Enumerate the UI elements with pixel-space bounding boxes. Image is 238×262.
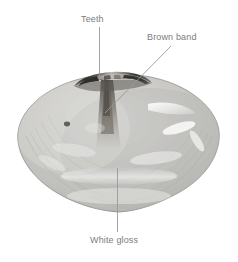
dark-spot [64, 122, 70, 127]
shell-body [14, 74, 238, 216]
annotation-label-teeth: Teeth [81, 14, 104, 25]
shell-anatomy-figure: Teeth Brown band White gloss [0, 0, 238, 262]
annotation-label-brown-band: Brown band [147, 32, 197, 43]
annotation-label-white-gloss: White gloss [90, 235, 138, 246]
shell-photograph [0, 0, 238, 262]
